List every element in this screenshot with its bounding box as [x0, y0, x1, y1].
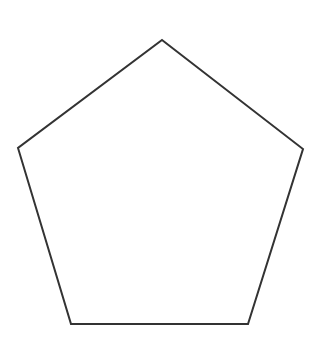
- pentagon-figure: [0, 0, 317, 350]
- pentagon-shape: [18, 40, 303, 324]
- diagram-canvas: [0, 0, 317, 350]
